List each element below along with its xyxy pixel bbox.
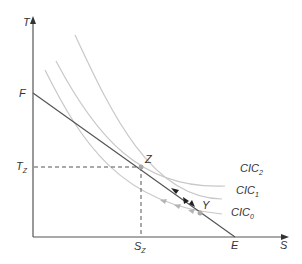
arrow-black-1-icon (171, 188, 179, 194)
tz-label: TZ (16, 160, 28, 174)
trade-off-diagram: T S F E Z Y TZ SZ CIC2 CIC1 CIC0 (0, 0, 302, 264)
y-axis-arrow-icon (30, 16, 36, 24)
cic0-label: CIC0 (231, 206, 254, 220)
curve-cic2 (75, 35, 222, 199)
budget-line (33, 93, 235, 237)
curve-cic0 (45, 70, 222, 214)
point-z (139, 165, 144, 170)
point-y (198, 211, 203, 216)
cic1-label: CIC1 (236, 184, 259, 198)
point-z-label: Z (144, 153, 153, 165)
x-axis-label: S (280, 239, 288, 251)
y-axis-label: T (23, 16, 31, 28)
point-e-label: E (231, 239, 239, 251)
point-y-label: Y (202, 199, 210, 211)
cic2-label: CIC2 (240, 162, 263, 176)
sz-label: SZ (134, 240, 146, 254)
point-f-label: F (19, 87, 27, 99)
arrow-grey-3-icon (188, 209, 195, 214)
